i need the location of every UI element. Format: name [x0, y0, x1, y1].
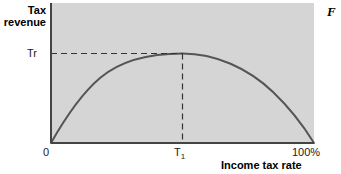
chart-canvas — [0, 0, 341, 174]
panel-letter: F — [327, 4, 336, 20]
x-axis-title: Income tax rate — [221, 159, 302, 171]
x-tick-label-t1-subscript: 1 — [181, 152, 185, 161]
x-tick-label-zero: 0 — [43, 146, 49, 158]
y-axis-title: Tax revenue — [4, 4, 46, 28]
y-axis-title-line2: revenue — [4, 16, 46, 28]
laffer-curve-figure: Tax revenue Income tax rate Tr 0 T1 100%… — [0, 0, 341, 174]
x-tick-label-t1: T1 — [174, 146, 185, 161]
x-tick-label-hundred: 100% — [292, 146, 320, 158]
y-tick-label-tr: Tr — [27, 47, 37, 59]
x-tick-label-t1-base: T — [174, 146, 181, 158]
y-axis-title-line1: Tax — [4, 4, 46, 16]
